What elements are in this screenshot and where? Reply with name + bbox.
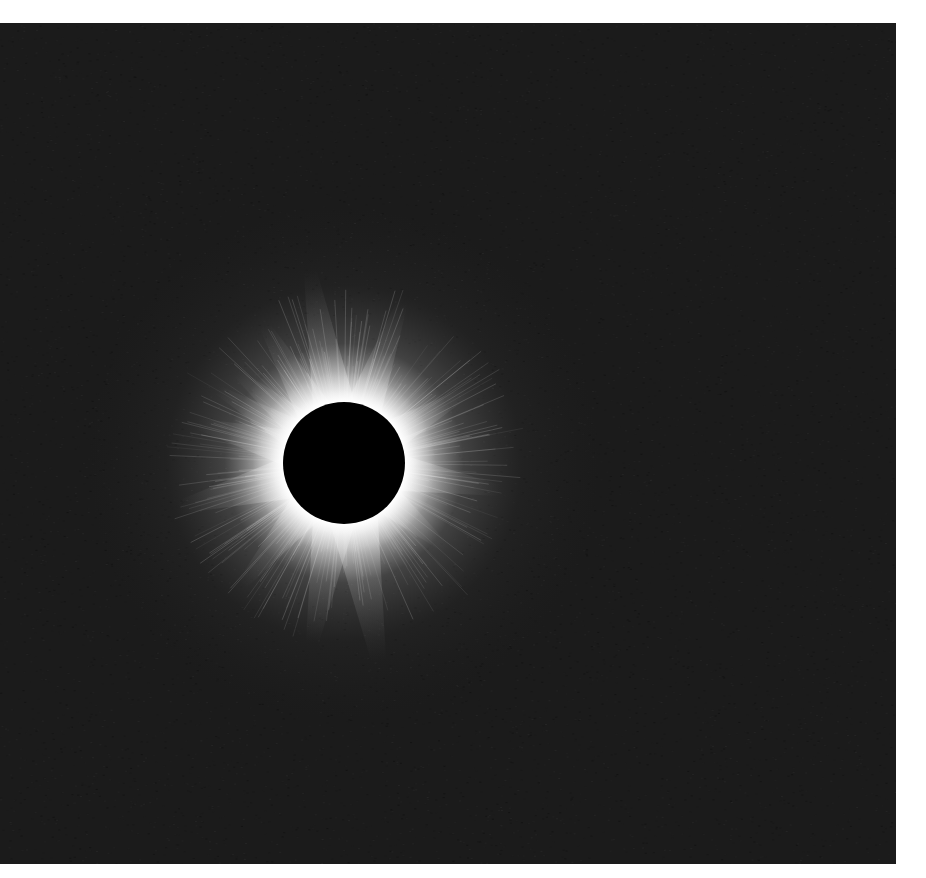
corona-canvas (0, 23, 896, 864)
eclipse-photo: Total solar eclipse with corona (0, 23, 896, 864)
